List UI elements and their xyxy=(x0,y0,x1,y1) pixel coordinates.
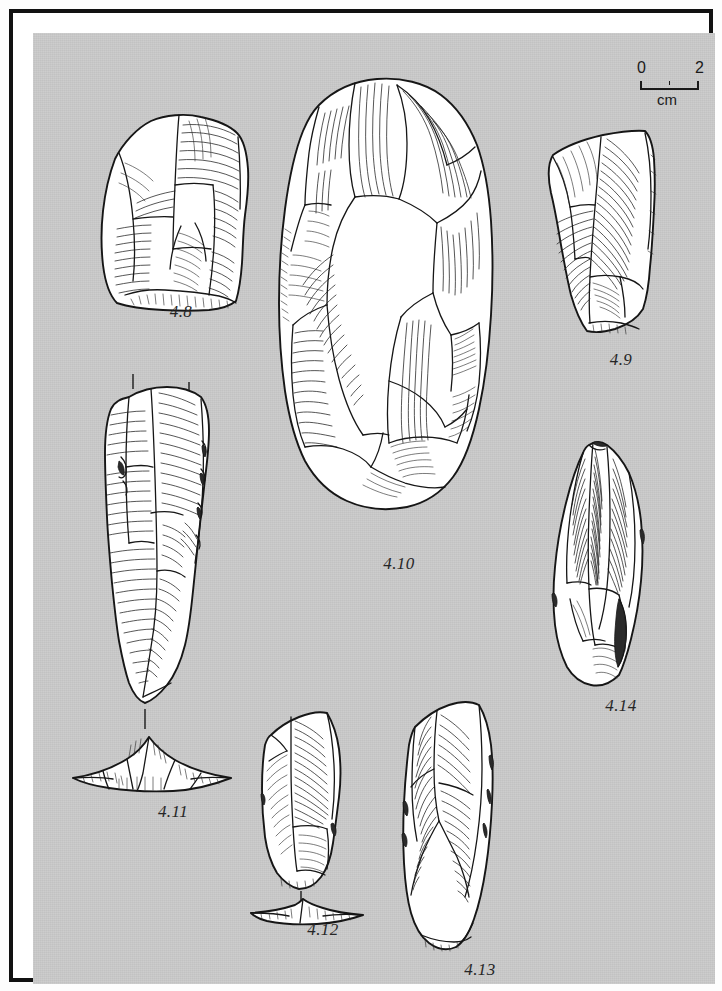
artefact-drawing-canvas: .out { fill:#ffffff; stroke:#161616; str… xyxy=(33,33,715,984)
plate-frame-outer: .out { fill:#ffffff; stroke:#161616; str… xyxy=(9,9,713,982)
artefact-4-12-drawing xyxy=(251,712,363,924)
figure-caption-4-10: 4.10 xyxy=(359,554,439,574)
artefact-4-10-drawing xyxy=(279,79,493,509)
figure-caption-4-12: 4.12 xyxy=(283,920,363,940)
artefact-4-14-drawing xyxy=(552,442,644,686)
plate-frame-inner: .out { fill:#ffffff; stroke:#161616; str… xyxy=(33,33,715,984)
figure-caption-4-13: 4.13 xyxy=(440,960,520,980)
artefact-4-9-drawing xyxy=(549,131,656,334)
scale-bar-unit-label: cm xyxy=(621,91,713,108)
scale-bar-start-label: 0 xyxy=(637,59,646,77)
scale-bar-end-label: 2 xyxy=(695,59,704,77)
scale-bar: 0 2 cm xyxy=(621,59,713,111)
scale-bar-mid-tick xyxy=(669,81,670,85)
figure-caption-4-8: 4.8 xyxy=(141,302,221,322)
artefact-4-11-drawing xyxy=(73,374,231,791)
artefact-4-8-drawing xyxy=(102,115,249,311)
figure-caption-4-11: 4.11 xyxy=(133,802,213,822)
figure-caption-4-9: 4.9 xyxy=(581,350,661,370)
figure-caption-4-14: 4.14 xyxy=(581,696,661,716)
artefact-4-13-drawing xyxy=(402,702,493,951)
plate-page: .out { fill:#ffffff; stroke:#161616; str… xyxy=(0,0,722,991)
scale-bar-numbers: 0 2 xyxy=(621,59,713,79)
artefact-4-11-section xyxy=(73,737,231,791)
